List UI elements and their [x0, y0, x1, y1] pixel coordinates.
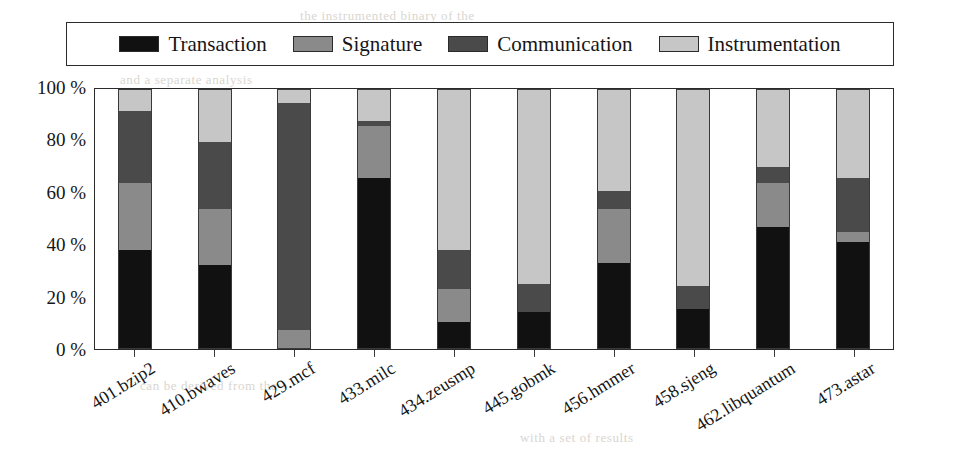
stacked-bar[interactable] [277, 89, 311, 349]
bar-segment[interactable] [757, 90, 789, 167]
bar-segment[interactable] [199, 90, 231, 142]
stacked-bar[interactable] [357, 89, 391, 349]
bar-slot [733, 89, 813, 349]
x-axis-tick-slot [734, 350, 814, 358]
x-axis-tick-label: 434.zeusmp [395, 358, 479, 422]
bar-slot [255, 89, 335, 349]
chart-legend: TransactionSignatureCommunicationInstrum… [66, 22, 894, 66]
bar-segment[interactable] [119, 90, 151, 111]
stacked-bar[interactable] [118, 89, 152, 349]
bar-segment[interactable] [598, 209, 630, 263]
bar-segment[interactable] [119, 111, 151, 183]
legend-entry: Signature [293, 34, 422, 55]
bar-series-layer [95, 89, 893, 349]
bar-segment[interactable] [119, 183, 151, 250]
x-axis-tick-slot [174, 350, 254, 358]
legend-label: Communication [497, 34, 632, 55]
bar-segment[interactable] [757, 227, 789, 348]
bar-slot [813, 89, 893, 349]
bar-segment[interactable] [438, 90, 470, 250]
legend-label: Signature [342, 34, 422, 55]
x-axis-tick-mark [374, 350, 375, 357]
bar-segment[interactable] [278, 330, 310, 348]
x-axis-tick-slot [494, 350, 574, 358]
bar-segment[interactable] [358, 90, 390, 121]
x-axis-tick-mark [214, 350, 215, 357]
legend-swatch-icon [659, 36, 699, 52]
bar-segment[interactable] [837, 90, 869, 178]
bar-segment[interactable] [837, 178, 869, 232]
bar-segment[interactable] [358, 126, 390, 178]
x-axis-tick-label: 445.gobmk [479, 358, 559, 419]
stacked-bar[interactable] [836, 89, 870, 349]
x-axis-tick-label: 429.mcf [258, 358, 320, 407]
bar-segment[interactable] [199, 209, 231, 266]
bar-segment[interactable] [598, 263, 630, 348]
x-axis-tick-mark [534, 350, 535, 357]
x-axis-tick-slot [414, 350, 494, 358]
bar-slot [414, 89, 494, 349]
bar-slot [334, 89, 414, 349]
bar-segment[interactable] [598, 191, 630, 209]
bar-segment[interactable] [119, 250, 151, 348]
x-axis-tick-slot [574, 350, 654, 358]
bar-segment[interactable] [278, 103, 310, 330]
bar-segment[interactable] [199, 142, 231, 209]
y-axis-tick-label: 80 % [46, 129, 86, 151]
bar-segment[interactable] [837, 232, 869, 242]
x-axis-tick-mark [454, 350, 455, 357]
y-axis-tick-label: 60 % [46, 182, 86, 204]
bar-segment[interactable] [518, 90, 550, 284]
bar-segment[interactable] [358, 178, 390, 348]
legend-label: Instrumentation [708, 34, 841, 55]
x-axis-tick-marks [94, 350, 894, 358]
bar-segment[interactable] [438, 322, 470, 348]
stacked-bar-chart-figure: TransactionSignatureCommunicationInstrum… [0, 0, 961, 467]
plot-area [94, 88, 894, 350]
bar-segment[interactable] [438, 289, 470, 323]
x-axis-tick-label: 456.hmmer [558, 358, 639, 420]
bar-segment[interactable] [518, 284, 550, 312]
bar-segment[interactable] [199, 265, 231, 348]
stacked-bar[interactable] [198, 89, 232, 349]
bar-slot [574, 89, 654, 349]
x-axis-tick-mark [694, 350, 695, 357]
x-axis-labels: 401.bzip2410.bwaves429.mcf433.milc434.ze… [94, 358, 894, 458]
bar-segment[interactable] [677, 309, 709, 348]
x-axis-tick-mark [854, 350, 855, 357]
legend-swatch-icon [293, 36, 333, 52]
bar-segment[interactable] [598, 90, 630, 191]
x-axis-tick-mark [614, 350, 615, 357]
x-axis-tick-mark [294, 350, 295, 357]
bar-segment[interactable] [518, 312, 550, 348]
x-axis-tick-label: 473.astar [812, 358, 879, 411]
x-axis-tick-label: 458.sjeng [649, 358, 719, 413]
stacked-bar[interactable] [756, 89, 790, 349]
x-axis-tick-label: 433.milc [334, 358, 399, 409]
bar-segment[interactable] [757, 183, 789, 227]
bar-segment[interactable] [438, 250, 470, 289]
y-axis-labels: 0 %20 %40 %60 %80 %100 % [0, 88, 86, 350]
x-axis-tick-label: 410.bwaves [156, 358, 240, 421]
x-axis-tick-mark [774, 350, 775, 357]
bar-segment[interactable] [837, 242, 869, 348]
x-axis-tick-slot [254, 350, 334, 358]
legend-entry: Instrumentation [659, 34, 841, 55]
stacked-bar[interactable] [676, 89, 710, 349]
stacked-bar[interactable] [437, 89, 471, 349]
x-axis-tick-slot [94, 350, 174, 358]
bar-segment[interactable] [677, 286, 709, 309]
stacked-bar[interactable] [517, 89, 551, 349]
legend-label: Transaction [168, 34, 266, 55]
x-axis-tick-slot [334, 350, 414, 358]
x-axis-tick-slot [814, 350, 894, 358]
bar-slot [95, 89, 175, 349]
bar-slot [654, 89, 734, 349]
bar-segment[interactable] [677, 90, 709, 286]
legend-entry: Transaction [119, 34, 266, 55]
bar-segment[interactable] [278, 90, 310, 103]
legend-swatch-icon [448, 36, 488, 52]
bar-slot [175, 89, 255, 349]
stacked-bar[interactable] [597, 89, 631, 349]
bar-segment[interactable] [757, 167, 789, 182]
